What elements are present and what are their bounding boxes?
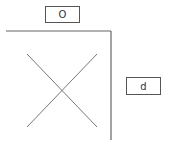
- top-label-box: O: [45, 6, 80, 23]
- right-label-box: d: [126, 77, 161, 95]
- diagram-canvas: [0, 0, 170, 147]
- right-label-text: d: [140, 81, 146, 92]
- top-label-text: O: [59, 9, 67, 20]
